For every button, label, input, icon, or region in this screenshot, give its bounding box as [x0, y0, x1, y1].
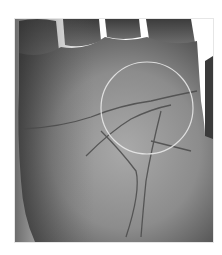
palm-photo-frame — [14, 18, 214, 243]
palm-photo — [15, 19, 213, 242]
